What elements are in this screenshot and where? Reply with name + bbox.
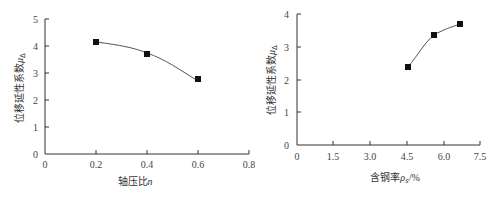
chart-steel-ratio: 0 1 2 3 4 0 1.5 3.0 4.5 6.0 7.5 含钢率ρs/% … — [265, 9, 486, 185]
x-tick-label: 0.8 — [243, 159, 256, 170]
y-tick-label: 4 — [33, 41, 38, 52]
data-point — [144, 51, 150, 57]
y-tick-label: 2 — [284, 75, 289, 86]
data-point — [405, 64, 411, 70]
x-ticks: 0 0.2 0.4 0.6 0.8 — [43, 150, 256, 170]
y-tick-label: 0 — [33, 149, 38, 160]
data-point — [93, 39, 99, 45]
y-tick-label: 4 — [284, 9, 289, 20]
x-tick-label: 6.0 — [438, 151, 451, 162]
x-tick-label: 0.4 — [141, 159, 154, 170]
y-tick-label: 1 — [284, 107, 289, 118]
y-axis-label: 位移延性系数μΔ — [13, 53, 27, 123]
data-point — [457, 21, 463, 27]
x-ticks: 0 1.5 3.0 4.5 6.0 7.5 — [295, 141, 487, 162]
y-tick-label: 3 — [284, 42, 289, 53]
data-curve — [408, 24, 460, 67]
x-tick-label: 0 — [295, 151, 300, 162]
x-tick-label: 4.5 — [401, 151, 414, 162]
chart-axial-compression: 0 1 2 3 4 5 0 0.2 0.4 0.6 0.8 轴压比n 位移延性系… — [13, 14, 255, 187]
data-curve — [96, 42, 198, 81]
y-tick-label: 5 — [33, 14, 38, 25]
x-tick-label: 0.6 — [192, 159, 205, 170]
data-point — [195, 76, 201, 82]
x-tick-label: 0 — [43, 159, 48, 170]
y-tick-label: 3 — [33, 68, 38, 79]
data-point — [431, 32, 437, 38]
x-tick-label: 7.5 — [474, 151, 487, 162]
y-tick-label: 2 — [33, 95, 38, 106]
figure: 0 1 2 3 4 5 0 0.2 0.4 0.6 0.8 轴压比n 位移延性系… — [0, 0, 494, 197]
x-tick-label: 0.2 — [90, 159, 103, 170]
y-ticks: 0 1 2 3 4 — [284, 9, 301, 151]
x-tick-label: 3.0 — [364, 151, 377, 162]
y-tick-label: 0 — [284, 140, 289, 151]
x-axis-label: 含钢率ρs/% — [370, 171, 420, 185]
y-ticks: 0 1 2 3 4 5 — [33, 14, 49, 160]
y-tick-label: 1 — [33, 122, 38, 133]
y-axis-label: 位移延性系数μΔ — [265, 45, 279, 115]
x-axis-label: 轴压比n — [118, 175, 153, 187]
x-tick-label: 1.5 — [327, 151, 340, 162]
